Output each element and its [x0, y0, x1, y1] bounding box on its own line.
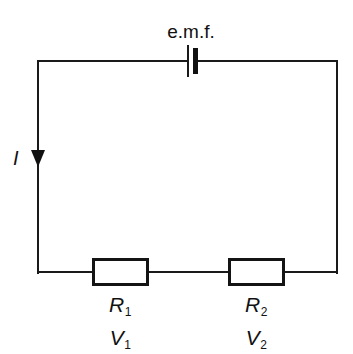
- wire-right-vertical: [336, 60, 338, 274]
- current-direction-arrow: [31, 150, 45, 167]
- voltage-1-label: V1: [110, 327, 131, 348]
- voltage-2-subscript: 2: [260, 338, 267, 352]
- resistor-1-subscript: 1: [125, 305, 132, 319]
- wire-top-right-segment: [194, 60, 338, 62]
- resistor-box-1: [92, 258, 149, 286]
- emf-label: e.m.f.: [167, 22, 215, 41]
- resistor-2-label: R2: [245, 294, 267, 315]
- circuit-diagram: e.m.f. I R1 V1 R2 V2: [0, 0, 353, 354]
- voltage-1-symbol: V: [110, 326, 124, 349]
- wire-bottom-left-segment: [37, 271, 94, 273]
- resistor-box-2: [228, 258, 285, 286]
- voltage-2-label: V2: [246, 327, 267, 348]
- wire-bottom-middle-segment: [148, 271, 230, 273]
- resistor-1-label: R1: [109, 294, 131, 315]
- current-label: I: [13, 148, 19, 168]
- battery-long-plate-icon: [187, 45, 189, 77]
- voltage-1-subscript: 1: [124, 338, 131, 352]
- wire-bottom-right-segment: [283, 271, 338, 273]
- battery-short-plate-icon: [193, 48, 198, 74]
- wire-top-left-segment: [37, 60, 187, 62]
- resistor-2-symbol: R: [245, 293, 260, 316]
- resistor-2-subscript: 2: [261, 305, 268, 319]
- voltage-2-symbol: V: [246, 326, 260, 349]
- resistor-1-symbol: R: [109, 293, 124, 316]
- wire-left-vertical: [37, 60, 39, 274]
